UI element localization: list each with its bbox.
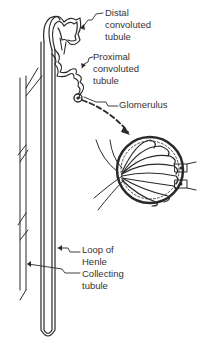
- glomerulus-enlarged: [94, 137, 196, 210]
- label-line: Distal: [105, 7, 151, 19]
- loop-of-henle: [41, 42, 55, 336]
- label-proximal-convoluted-tubule: Proximal convoluted tubule: [93, 51, 139, 87]
- label-line: Henle: [82, 256, 114, 268]
- label-glomerulus: Glomerulus: [119, 99, 168, 111]
- label-line: Glomerulus: [119, 99, 168, 111]
- label-line: Proximal: [93, 51, 139, 63]
- label-line: convoluted: [105, 19, 151, 31]
- bowmans-capsule-small: [74, 94, 82, 102]
- label-line: Loop of: [82, 244, 114, 256]
- label-line: tubule: [105, 31, 151, 43]
- label-distal-convoluted-tubule: Distal convoluted tubule: [105, 7, 151, 43]
- proximal-convoluted-tubule: [52, 38, 84, 98]
- distal-convoluted-tubule: [44, 16, 81, 50]
- label-line: tubule: [82, 280, 124, 292]
- label-line: convoluted: [93, 63, 139, 75]
- label-collecting-tubule: Collecting tubule: [82, 268, 124, 292]
- label-loop-of-henle: Loop of Henle: [82, 244, 114, 268]
- label-line: Collecting: [82, 268, 124, 280]
- label-line: tubule: [93, 75, 139, 87]
